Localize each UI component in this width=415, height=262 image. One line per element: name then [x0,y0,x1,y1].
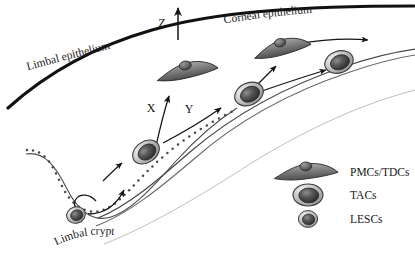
crypt-stipple-dots [26,111,233,213]
legend-label-pmcs-tdcs: PMCs/TDCs [350,166,410,178]
axis-arrow-x [156,96,169,146]
legend-swatch-pmcs-tdcs [274,160,339,181]
axis-label-z: Z [158,16,165,30]
diagram-canvas: Z X Y [0,0,415,262]
legend-swatch-lescs [298,211,317,228]
cell-tac-basal-lower [128,135,164,169]
cell-lesc-crypt [64,204,87,225]
axis-label-y: Y [185,102,194,116]
cell-pmc-suprabasal-left [155,56,219,83]
axis-label-x: X [147,101,156,115]
figure-root: Z X Y [0,0,415,262]
label-limbal-epithelium: Limbal epithelium [25,39,111,72]
cell-tac-basal-mid [231,78,268,111]
crypt-exit-arrow [88,190,124,214]
legend-label-tacs: TACs [350,189,377,201]
legend-label-lescs: LESCs [350,213,383,225]
cell-pmc-suprabasal-right [252,33,312,61]
differentiation-arrow-mid [258,66,276,84]
label-corneal-epithelium: Corneal epithelium [223,3,313,26]
legend: PMCs/TDCs TACs LESCs [274,160,410,227]
migration-arrow-basal-left [103,163,122,181]
legend-swatch-tacs [293,184,323,206]
limbal-crypt-membrane [26,108,237,218]
label-limbal-crypt: Limbal crypt [52,224,116,247]
